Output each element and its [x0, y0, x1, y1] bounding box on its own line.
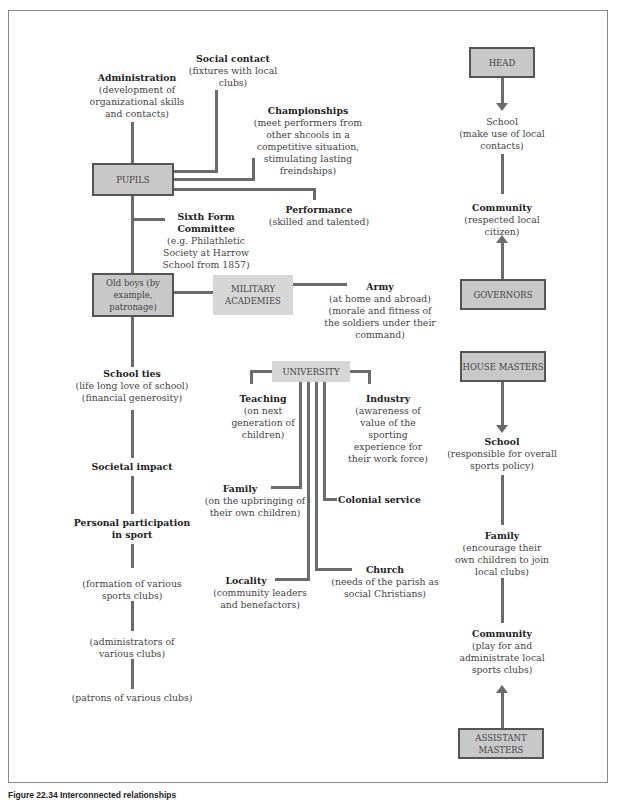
connector	[131, 410, 134, 458]
connector	[250, 370, 272, 373]
connector	[215, 90, 218, 173]
label-school-ties: School ties(life long love of school) (f…	[72, 368, 192, 404]
label-championships: Championships(meet performers from other…	[248, 105, 368, 177]
label-family-university: Family(on the upbringing of their own ch…	[200, 483, 310, 519]
connector	[501, 693, 504, 729]
label-army: Army(at home and abroad) (morale and fit…	[320, 281, 440, 341]
connector	[323, 382, 326, 500]
label-family-house-masters: Family(encourage their own children to j…	[452, 530, 552, 578]
label-administration: Administration(development of organizati…	[82, 72, 192, 120]
label-sixth-form-committee: Sixth Form Committee(e.g. Philathletic S…	[150, 211, 262, 271]
label-school-house-masters: School(responsible for overall sports po…	[437, 436, 567, 472]
label-performance: Performance(skilled and talented)	[264, 204, 374, 228]
connector	[131, 196, 134, 273]
connector	[501, 475, 504, 525]
connector	[313, 188, 316, 200]
connector	[501, 154, 504, 194]
connector	[501, 78, 504, 105]
label-church: Church(needs of the parish as social Chr…	[330, 564, 440, 600]
connector	[250, 370, 253, 384]
connector	[315, 382, 318, 570]
connector	[131, 601, 134, 631]
label-social-contact: Social contact(fixtures with local clubs…	[188, 53, 278, 89]
connector	[131, 659, 134, 689]
label-school-head: School(make use of local contacts)	[452, 116, 552, 152]
figure-caption: Figure 22.34 Interconnected relationship…	[8, 790, 176, 800]
node-governors: GOVERNORS	[460, 279, 546, 310]
label-personal-participation: Personal participation in sport	[72, 517, 192, 541]
arrow-up-icon	[496, 685, 508, 693]
connector	[131, 122, 134, 164]
connector	[131, 476, 134, 514]
connector	[172, 170, 218, 173]
label-teaching: Teaching(on next generation of children)	[218, 393, 308, 441]
label-community-governors: Community(respected local citizen)	[447, 202, 557, 238]
connector	[323, 498, 337, 501]
label-community-assistant-masters: Community(play for and administrate loca…	[452, 628, 552, 676]
arrow-down-icon	[496, 103, 508, 111]
connector	[350, 370, 370, 373]
node-head: HEAD	[469, 47, 535, 78]
connector	[501, 578, 504, 623]
connector	[131, 544, 134, 568]
connector	[368, 370, 371, 384]
connector	[174, 291, 214, 294]
node-assistant-masters: ASSISTANT MASTERS	[458, 728, 544, 759]
label-societal-impact: Societal impact	[72, 461, 192, 473]
label-administrators-clubs: (administrators of various clubs)	[72, 636, 192, 660]
connector	[501, 382, 504, 427]
connector	[172, 188, 315, 191]
node-house-masters: HOUSE MASTERS	[460, 351, 546, 382]
node-military-academies: MILITARY ACADEMIES	[213, 275, 293, 315]
connector	[131, 317, 134, 367]
connector	[299, 382, 302, 488]
label-formation-clubs: (formation of various sports clubs)	[72, 578, 192, 602]
arrow-up-icon	[496, 235, 508, 243]
connector	[252, 158, 255, 180]
label-locality: Locality(community leaders and benefacto…	[205, 575, 315, 611]
connector	[307, 382, 310, 580]
arrow-down-icon	[496, 425, 508, 433]
node-university: UNIVERSITY	[272, 361, 350, 382]
node-pupils: PUPILS	[92, 163, 174, 196]
node-old-boys: Old boys (by example, patronage)	[92, 273, 174, 317]
label-patrons-clubs: (patrons of various clubs)	[62, 692, 202, 704]
connector	[501, 243, 504, 279]
connector	[172, 178, 255, 181]
label-colonial-service: Colonial service	[338, 494, 428, 506]
label-industry: Industry(awareness of value of the sport…	[343, 393, 433, 465]
